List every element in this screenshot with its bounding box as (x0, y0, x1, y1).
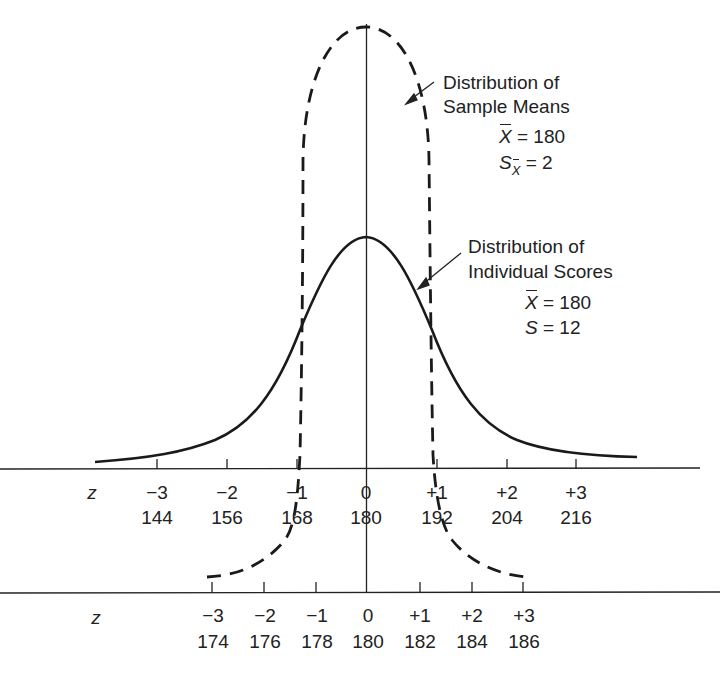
diagram-canvas (0, 0, 720, 674)
top-axis-z-tick: −1 (286, 482, 308, 504)
individual-scores-arrow (418, 253, 461, 289)
bottom-axis-z-tick: −2 (254, 605, 276, 627)
sample-means-axis-ticks (212, 582, 523, 593)
bottom-axis-z-tick: +3 (513, 605, 535, 627)
bottom-axis-z-tick: −3 (202, 605, 224, 627)
bottom-axis-value-tick: 184 (456, 631, 488, 653)
individual-scores-sd-value: = 12 (543, 317, 581, 338)
bottom-axis-value-tick: 182 (404, 631, 436, 653)
sample-means-sd-value: = 2 (526, 152, 553, 173)
top-axis-z-tick: +2 (496, 482, 518, 504)
s-symbol: S (499, 152, 512, 173)
sample-means-title-line2: Sample Means (443, 96, 570, 118)
sample-means-sd: SX = 2 (499, 152, 553, 176)
individual-scores-mean: X = 180 (525, 292, 591, 314)
x-bar-symbol: X (525, 292, 538, 314)
top-axis-z-tick: +3 (565, 482, 587, 504)
top-axis-value-tick: 144 (141, 507, 173, 529)
bottom-axis-value-tick: 186 (508, 631, 540, 653)
bottom-axis-z-tick: +2 (461, 605, 483, 627)
sample-means-title-line1: Distribution of (443, 72, 559, 94)
individual-scores-mean-value: = 180 (543, 292, 591, 313)
top-axis-z-tick: +1 (426, 482, 448, 504)
top-axis-z-tick: −3 (146, 482, 168, 504)
s-symbol: S (525, 317, 538, 338)
bottom-axis-value-tick: 180 (352, 631, 384, 653)
top-axis-value-tick: 216 (560, 507, 592, 529)
x-bar-subscript: X (512, 160, 521, 182)
individual-scores-title-line1: Distribution of (468, 236, 584, 258)
individual-scores-axis-line (0, 468, 700, 469)
bottom-axis-z-tick: 0 (363, 605, 374, 627)
top-axis-z-tick: 0 (361, 482, 372, 504)
sample-means-mean-value: = 180 (517, 126, 565, 147)
bottom-axis-z-tick: −1 (306, 605, 328, 627)
individual-scores-title-line2: Individual Scores (468, 261, 613, 283)
top-axis-z-tick: −2 (216, 482, 238, 504)
top-axis-value-tick: 180 (350, 507, 382, 529)
bottom-axis-value-tick: 176 (249, 631, 281, 653)
bottom-axis-value-tick: 178 (301, 631, 333, 653)
bottom-axis-value-tick: 174 (197, 631, 229, 653)
sample-means-axis-line (0, 592, 720, 593)
x-bar-symbol: X (499, 126, 512, 148)
top-axis-z-label: z (87, 482, 97, 504)
bottom-axis-z-label: z (91, 607, 101, 629)
sample-means-mean: X = 180 (499, 126, 565, 148)
individual-scores-sd: S = 12 (525, 317, 580, 339)
top-axis-value-tick: 204 (491, 507, 523, 529)
top-axis-value-tick: 168 (281, 507, 313, 529)
top-axis-value-tick: 192 (421, 507, 453, 529)
bottom-axis-z-tick: +1 (409, 605, 431, 627)
top-axis-value-tick: 156 (211, 507, 243, 529)
